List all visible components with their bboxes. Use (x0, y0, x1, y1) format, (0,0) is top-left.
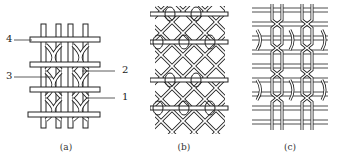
label-3: 3 (6, 70, 12, 81)
weave-diagram-c (252, 0, 332, 160)
caption-c: (c) (270, 142, 310, 152)
weave-diagram-a (0, 0, 120, 160)
weave-diagram-b (150, 0, 230, 160)
panel-c: (c) (252, 0, 332, 160)
panel-b: (b) (150, 0, 230, 160)
panel-a: 4 3 2 1 (a) (0, 0, 120, 160)
label-4: 4 (6, 33, 12, 44)
label-1: 1 (122, 91, 128, 102)
figure: 4 3 2 1 (a) (0, 0, 345, 160)
caption-a: (a) (46, 142, 86, 152)
caption-b: (b) (164, 142, 204, 152)
label-2: 2 (122, 64, 128, 75)
